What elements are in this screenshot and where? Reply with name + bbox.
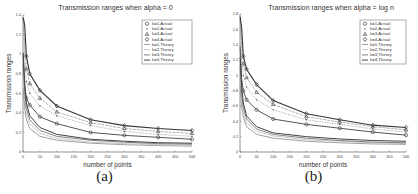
series-k-2-theory [23,74,192,145]
x-tick-label: 150 [71,155,77,159]
series-k-3-theory [240,65,406,143]
y-axis-label: Transmission ranges [222,52,230,113]
y-tick-label: 1 [19,52,21,56]
x-tick-label: 300 [121,155,127,159]
x-tick-label: 250 [320,155,326,159]
y-tick-label: 1.8 [233,12,238,16]
x-tick-label: 350 [138,155,144,159]
y-tick-label: 1 [236,74,238,78]
line-chart-b: Transmission ranges when alpha = log n05… [209,0,418,194]
y-tick-label: 1.4 [233,43,238,47]
legend-entry: k=4,Theory [152,57,174,62]
x-tick-label: 150 [287,155,293,159]
x-tick-label: 250 [104,155,110,159]
chart-title: Transmission ranges when alpha = 0 [58,4,172,12]
y-tick-label: 0.6 [16,92,21,96]
x-tick-label: 400 [370,155,376,159]
series-k-4-theory [240,58,406,142]
y-tick-label: 0 [19,150,21,154]
x-tick-label: 500 [189,155,195,159]
panel-caption-a: (a) [0,168,209,185]
line-chart-a: Transmission ranges when alpha = 0050100… [0,0,209,194]
y-tick-label: 0.8 [233,89,238,93]
chart-legend: k=1,Actualk=2,Actualk=3,Actualk=4,Actual… [142,20,192,64]
y-tick-label: 0 [236,150,238,154]
y-tick-label: 0.2 [233,135,238,139]
y-tick-label: 0.4 [233,120,238,124]
x-tick-label: 450 [386,155,392,159]
chart-title: Transmission ranges when alpha = log n [268,4,394,12]
chart-legend: k=1,Actualk=2,Actualk=3,Actualk=4,Actual… [360,20,406,64]
chart-panel-b: Transmission ranges when alpha = log n05… [209,0,418,194]
x-tick-label: 350 [353,155,359,159]
x-tick-label: 100 [54,155,60,159]
y-tick-label: 0.8 [16,72,21,76]
y-tick-label: 0.4 [16,111,21,115]
y-tick-label: 0.2 [16,131,21,135]
x-tick-label: 50 [254,155,258,159]
y-tick-label: 1.2 [233,58,238,62]
chart-panel-a: Transmission ranges when alpha = 0050100… [0,0,209,194]
x-tick-label: 450 [172,155,178,159]
legend-entry: k=4,Theory [370,57,392,62]
y-axis-label: Transmission ranges [5,53,13,114]
panel-caption-b: (b) [209,168,418,185]
y-tick-label: 1.4 [16,13,21,17]
x-tick-label: 0 [239,155,241,159]
x-tick-label: 50 [38,155,42,159]
x-tick-label: 200 [303,155,309,159]
x-tick-label: 300 [336,155,342,159]
y-tick-label: 1.2 [16,33,21,37]
x-tick-label: 200 [87,155,93,159]
y-tick-label: 1.6 [233,28,238,32]
x-tick-label: 400 [155,155,161,159]
y-tick-label: 0.6 [233,104,238,108]
x-tick-label: 0 [22,155,24,159]
x-tick-label: 100 [270,155,276,159]
x-tick-label: 500 [403,155,409,159]
